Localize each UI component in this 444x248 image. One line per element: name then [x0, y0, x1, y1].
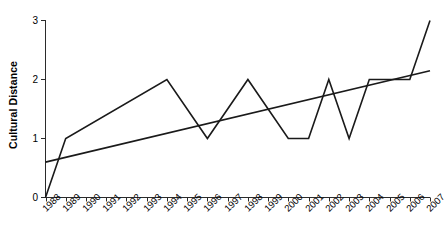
y-axis-tick-label: 2 — [24, 74, 38, 85]
y-axis-ticks — [41, 21, 45, 198]
y-axis-tick-label: 1 — [24, 133, 38, 144]
y-axis-tick-label: 3 — [24, 15, 38, 26]
data-series-line — [46, 21, 431, 198]
y-axis-tick-label: 0 — [24, 192, 38, 203]
chart-figure: Cultural Distance 0123 19881989199019911… — [0, 0, 444, 248]
